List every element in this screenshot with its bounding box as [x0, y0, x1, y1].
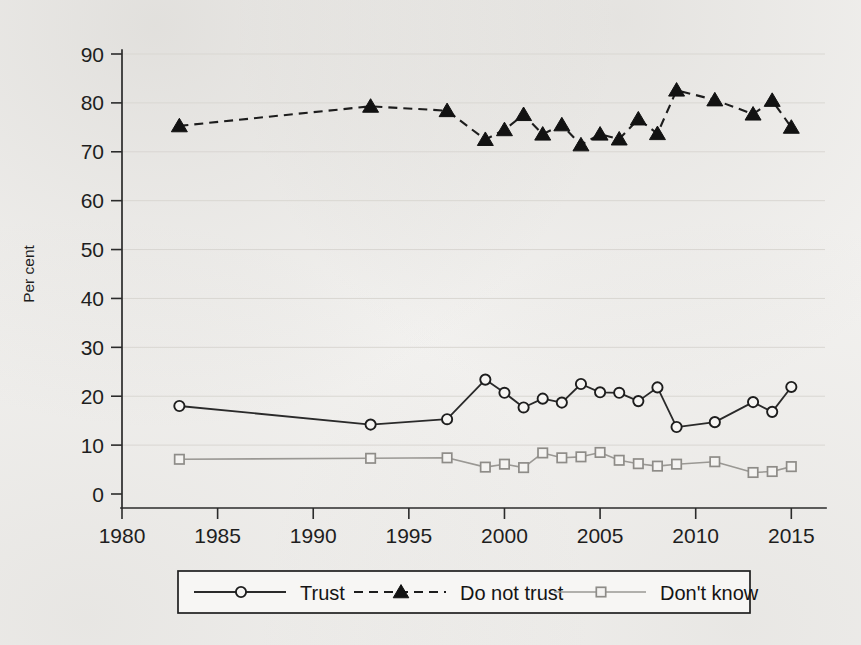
- y-tick-label-70: 70: [81, 140, 104, 163]
- y-tick-label-20: 20: [81, 385, 104, 408]
- do-not-trust-point-2009: [669, 83, 685, 97]
- legend-label-dont-know: Don't know: [660, 582, 759, 604]
- y-tick-label-80: 80: [81, 91, 104, 114]
- figure-canvas: 0102030405060708090 19801985199019952000…: [0, 0, 861, 645]
- dont-know-point-1999: [481, 462, 490, 471]
- x-tick-label-2015: 2015: [768, 524, 815, 547]
- dont-know-point-2001: [519, 463, 528, 472]
- trust-point-2006: [614, 388, 624, 398]
- trust-point-2007: [633, 396, 643, 406]
- x-tick-label-1990: 1990: [290, 524, 337, 547]
- dont-know-point-2004: [576, 452, 585, 461]
- dont-know-point-2002: [538, 448, 547, 457]
- y-tick-label-10: 10: [81, 434, 104, 457]
- trust-point-2011: [710, 417, 720, 427]
- y-tick-label-40: 40: [81, 287, 104, 310]
- do-not-trust-point-2013: [745, 107, 761, 121]
- dont-know-point-1993: [366, 454, 375, 463]
- trust-point-2015: [786, 382, 796, 392]
- series-line-trust: [179, 380, 791, 427]
- do-not-trust-point-2008: [649, 126, 665, 140]
- x-tick-label-2010: 2010: [672, 524, 719, 547]
- trust-point-2001: [518, 402, 528, 412]
- legend-marker-trust: [236, 587, 246, 597]
- dont-know-point-2015: [787, 462, 796, 471]
- y-axis-ticks: 0102030405060708090: [81, 43, 122, 506]
- do-not-trust-point-2007: [630, 111, 646, 125]
- gridlines: [122, 54, 825, 445]
- legend-label-trust: Trust: [300, 582, 345, 604]
- x-axis-ticks: 19801985199019952000200520102015: [99, 508, 815, 547]
- trust-point-2008: [652, 382, 662, 392]
- dont-know-point-2008: [653, 461, 662, 470]
- do-not-trust-point-1999: [477, 132, 493, 146]
- axes: [121, 50, 826, 508]
- trust-point-2000: [499, 388, 509, 398]
- dont-know-point-1983: [175, 455, 184, 464]
- y-tick-label-90: 90: [81, 43, 104, 66]
- trust-point-2013: [748, 397, 758, 407]
- series-trust: [174, 375, 796, 433]
- trust-point-1983: [174, 401, 184, 411]
- dont-know-point-2007: [634, 459, 643, 468]
- y-tick-label-0: 0: [92, 483, 104, 506]
- trust-point-2004: [576, 379, 586, 389]
- do-not-trust-point-2014: [764, 93, 780, 107]
- do-not-trust-point-2011: [707, 92, 723, 106]
- trust-point-2005: [595, 387, 605, 397]
- series-dont-know: [175, 448, 796, 477]
- series-do-not-trust: [171, 83, 799, 151]
- trust-point-1997: [442, 414, 452, 424]
- dont-know-point-2000: [500, 459, 509, 468]
- chart-legend[interactable]: TrustDo not trustDon't know: [178, 571, 759, 613]
- y-axis-title-text: Per cent: [20, 244, 37, 302]
- x-tick-label-1995: 1995: [385, 524, 432, 547]
- x-tick-label-2000: 2000: [481, 524, 528, 547]
- trust-point-2003: [557, 397, 567, 407]
- do-not-trust-point-2015: [783, 120, 799, 134]
- do-not-trust-point-2003: [554, 117, 570, 131]
- dont-know-point-1997: [442, 453, 451, 462]
- data-series: [171, 83, 799, 478]
- dont-know-point-2011: [710, 457, 719, 466]
- trust-point-2014: [767, 407, 777, 417]
- y-tick-label-30: 30: [81, 336, 104, 359]
- line-chart: 0102030405060708090 19801985199019952000…: [0, 0, 861, 645]
- dont-know-point-2005: [595, 448, 604, 457]
- dont-know-point-2006: [615, 456, 624, 465]
- dont-know-point-2009: [672, 459, 681, 468]
- dont-know-point-2013: [748, 468, 757, 477]
- do-not-trust-point-2001: [516, 107, 532, 121]
- trust-point-2002: [538, 394, 548, 404]
- x-tick-label-2005: 2005: [577, 524, 624, 547]
- y-tick-label-60: 60: [81, 189, 104, 212]
- legend-marker-dont-know: [596, 587, 605, 596]
- do-not-trust-point-2005: [592, 127, 608, 141]
- trust-point-2009: [671, 422, 681, 432]
- do-not-trust-point-2004: [573, 137, 589, 151]
- y-tick-label-50: 50: [81, 238, 104, 261]
- legend-label-do-not-trust: Do not trust: [460, 582, 564, 604]
- trust-point-1999: [480, 375, 490, 385]
- dont-know-point-2003: [557, 453, 566, 462]
- do-not-trust-point-1993: [363, 99, 379, 113]
- y-axis-title: Per cent: [20, 244, 37, 302]
- x-tick-label-1985: 1985: [194, 524, 241, 547]
- x-tick-label-1980: 1980: [99, 524, 146, 547]
- dont-know-point-2014: [767, 467, 776, 476]
- trust-point-1993: [366, 419, 376, 429]
